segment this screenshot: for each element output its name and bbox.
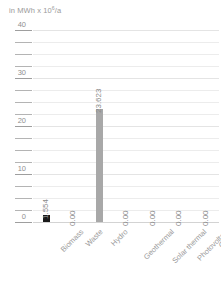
- bar-chart: in MWh x 106/a 0102030401.554Biomass0.00…: [0, 0, 221, 285]
- gridline: [33, 42, 219, 43]
- gridline: [33, 102, 219, 103]
- bar-value-label: 0.00: [202, 210, 210, 226]
- y-axis-major-tick: [15, 174, 32, 175]
- y-axis-tick-label: 0: [4, 213, 26, 221]
- axis-unit-title: in MWh x 106/a: [9, 6, 61, 16]
- x-axis-category-label: Geothermal: [142, 228, 175, 261]
- gridline: [33, 114, 219, 115]
- bar-value-label: 0.00: [69, 210, 77, 226]
- gridline: [33, 126, 219, 127]
- y-axis-tick-label: 20: [4, 117, 26, 125]
- gridline: [33, 198, 219, 199]
- gridline: [33, 66, 219, 67]
- gridline: [33, 186, 219, 187]
- y-axis-minor-tick: [15, 186, 32, 187]
- gridline: [33, 150, 219, 151]
- y-axis-minor-tick: [15, 162, 32, 163]
- y-axis-minor-tick: [15, 90, 32, 91]
- bar-value-label: 0.00: [122, 210, 130, 226]
- bar: [96, 109, 103, 222]
- gridline: [33, 78, 219, 79]
- gridline: [33, 54, 219, 55]
- y-axis-minor-tick: [15, 114, 32, 115]
- bar-value-label: 0.00: [175, 210, 183, 226]
- gridline: [33, 30, 219, 31]
- axis-unit-title-prefix: in MWh x 10: [9, 6, 52, 15]
- y-axis-minor-tick: [15, 102, 32, 103]
- bar-value-label: 1.554: [42, 199, 50, 219]
- y-axis-minor-tick: [15, 138, 32, 139]
- y-axis-major-tick: [15, 30, 32, 31]
- gridline: [33, 174, 219, 175]
- y-axis-minor-tick: [15, 66, 32, 67]
- gridline: [33, 138, 219, 139]
- plot-area: [33, 30, 219, 222]
- y-axis-major-tick: [15, 126, 32, 127]
- y-axis-minor-tick: [15, 42, 32, 43]
- y-axis-minor-tick: [15, 150, 32, 151]
- axis-unit-title-suffix: /a: [55, 6, 61, 15]
- y-axis-minor-tick: [15, 54, 32, 55]
- y-axis-tick-label: 40: [4, 21, 26, 29]
- y-axis-tick-label: 10: [4, 165, 26, 173]
- y-axis-major-tick: [15, 78, 32, 79]
- gridline: [33, 90, 219, 91]
- y-axis-major-tick: [15, 222, 32, 223]
- y-axis-tick-label: 30: [4, 69, 26, 77]
- y-axis-minor-tick: [15, 198, 32, 199]
- y-axis-minor-tick: [15, 210, 32, 211]
- x-axis-category-label: Waste: [84, 228, 104, 248]
- gridline: [33, 162, 219, 163]
- bar-value-label: 23.623: [95, 88, 103, 112]
- bar-value-label: 0.00: [149, 210, 157, 226]
- x-axis-category-label: Hydro: [110, 228, 130, 248]
- x-axis-category-label: Biomass: [60, 228, 86, 254]
